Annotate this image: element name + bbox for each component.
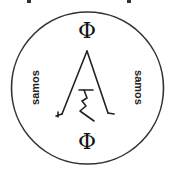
right-samos-label: samos [133, 70, 144, 105]
seal-diagram: Φ Φ samos samos [0, 0, 175, 176]
left-samos-label: samos [30, 70, 41, 105]
top-phi-symbol: Φ [72, 20, 102, 42]
xi-glyph-icon [79, 90, 94, 121]
bottom-phi-symbol: Φ [72, 131, 102, 153]
